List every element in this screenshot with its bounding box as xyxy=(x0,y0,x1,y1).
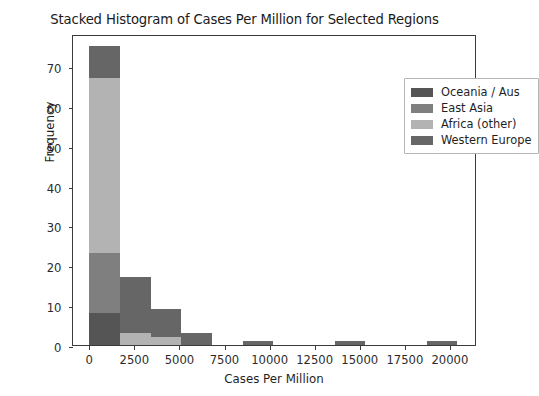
histogram-bar-segment xyxy=(89,46,120,78)
y-axis-tick: 60 xyxy=(69,108,74,109)
x-axis-tick-label: 10000 xyxy=(251,353,288,367)
y-axis-tick: 50 xyxy=(69,148,74,149)
y-axis-tick: 70 xyxy=(69,68,74,69)
histogram-bar[interactable] xyxy=(243,341,274,345)
legend-item[interactable]: Africa (other) xyxy=(411,116,531,132)
histogram-bar-segment xyxy=(151,309,182,337)
histogram-bar[interactable] xyxy=(89,46,120,345)
legend-label: Oceania / Aus xyxy=(441,85,520,99)
x-axis-tick xyxy=(179,345,180,350)
histogram-bar-segment xyxy=(120,333,151,345)
y-axis-tick: 40 xyxy=(69,188,74,189)
histogram-bar-segment xyxy=(243,341,274,345)
x-axis-tick xyxy=(89,345,90,350)
x-axis-tick-label: 15000 xyxy=(341,353,378,367)
y-axis-tick-label: 20 xyxy=(47,261,62,275)
histogram-bar-segment xyxy=(120,277,151,333)
x-axis-tick xyxy=(360,345,361,350)
y-axis-tick: 30 xyxy=(69,227,74,228)
legend-item[interactable]: Western Europe xyxy=(411,132,531,148)
x-axis-tick-label: 17500 xyxy=(386,353,423,367)
x-axis-tick-label: 0 xyxy=(86,353,93,367)
x-axis-tick-label: 7500 xyxy=(210,353,240,367)
legend-swatch xyxy=(411,88,433,97)
y-axis-tick-label: 30 xyxy=(47,221,62,235)
histogram-bar[interactable] xyxy=(181,333,212,345)
y-axis-tick-label: 10 xyxy=(47,301,62,315)
x-axis-tick-label: 2500 xyxy=(120,353,150,367)
y-axis-tick-label: 0 xyxy=(54,341,61,355)
histogram-bar[interactable] xyxy=(120,277,151,345)
legend: Oceania / AusEast AsiaAfrica (other)West… xyxy=(404,78,539,154)
legend-item[interactable]: East Asia xyxy=(411,100,531,116)
x-axis-tick xyxy=(134,345,135,350)
histogram-bar-segment xyxy=(89,313,120,345)
legend-label: Western Europe xyxy=(441,133,531,147)
page-title: Stacked Histogram of Cases Per Million f… xyxy=(0,12,489,27)
x-axis-tick-label: 20000 xyxy=(431,353,468,367)
x-axis-tick xyxy=(450,345,451,350)
legend-swatch xyxy=(411,136,433,145)
histogram-bar-segment xyxy=(181,333,212,345)
legend-label: Africa (other) xyxy=(441,117,516,131)
plot-axes: 010203040506070 025005000750010000125001… xyxy=(72,35,476,346)
legend-swatch xyxy=(411,104,433,113)
x-axis-label: Cases Per Million xyxy=(72,372,476,386)
x-axis-tick xyxy=(315,345,316,350)
y-axis-label: Frequency xyxy=(43,52,57,212)
histogram-bar-segment xyxy=(89,253,120,313)
x-axis-tick xyxy=(225,345,226,350)
y-axis-tick: 20 xyxy=(69,267,74,268)
x-axis-tick-label: 5000 xyxy=(165,353,195,367)
legend-item[interactable]: Oceania / Aus xyxy=(411,84,531,100)
histogram-bar-segment xyxy=(151,337,182,345)
y-axis-tick: 10 xyxy=(69,307,74,308)
y-axis-tick: 0 xyxy=(69,347,74,348)
x-axis-tick-label: 12500 xyxy=(296,353,333,367)
histogram-bar-segment xyxy=(427,341,458,345)
histogram-bar-segment xyxy=(89,78,120,253)
x-axis-tick xyxy=(405,345,406,350)
histogram-bar[interactable] xyxy=(151,309,182,345)
histogram-bar[interactable] xyxy=(427,341,458,345)
legend-label: East Asia xyxy=(441,101,493,115)
x-axis-tick xyxy=(270,345,271,350)
legend-swatch xyxy=(411,120,433,129)
